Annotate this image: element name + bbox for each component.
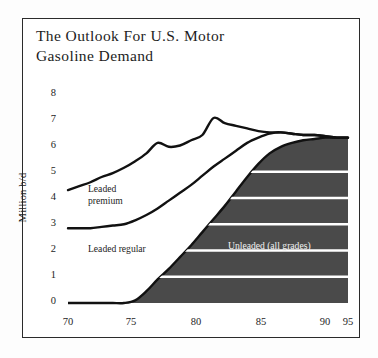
series-label-leaded-regular: Leaded regular <box>88 243 146 255</box>
series-label-leaded-premium-line-2: premium <box>88 195 123 207</box>
chart-plot-area <box>0 0 378 358</box>
series-unleaded-area <box>68 138 348 304</box>
series-label-unleaded: Unleaded (all grades) <box>228 240 311 252</box>
series-label-leaded-premium-line-1: Leaded <box>88 183 123 195</box>
series-label-leaded-premium: Leaded premium <box>88 183 123 207</box>
chart-page: The Outlook For U.S. Motor Gasoline Dema… <box>0 0 378 358</box>
